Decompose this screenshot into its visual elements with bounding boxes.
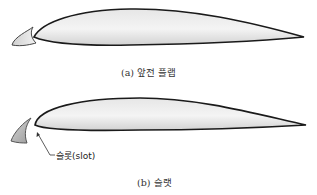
main-airfoil-a	[34, 9, 304, 45]
caption-panel-a: (a) 앞전 플랩	[121, 65, 176, 79]
slot-leader-line	[38, 134, 55, 155]
caption-panel-b: (b) 슬랫	[137, 175, 172, 189]
panel-b-airfoil-group	[11, 98, 306, 155]
airfoil-diagram	[0, 0, 317, 195]
main-airfoil-b	[35, 98, 306, 130]
slat	[11, 118, 31, 143]
panel-a-airfoil-group	[12, 9, 304, 46]
slot-annotation-label: 슬롯(slot)	[56, 149, 95, 162]
leading-edge-flap	[12, 27, 36, 46]
